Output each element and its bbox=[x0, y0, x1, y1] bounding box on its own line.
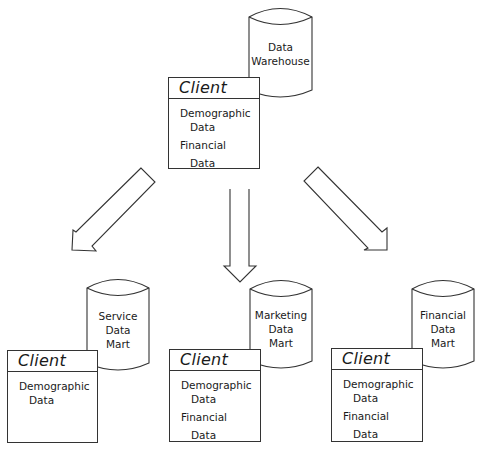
field-line: Data bbox=[332, 427, 422, 441]
arrow-down-right-icon bbox=[304, 167, 387, 250]
field-line: Data bbox=[170, 392, 260, 406]
entity-fields: Demographic Data Financial Data bbox=[332, 370, 422, 441]
entity-title: Client bbox=[332, 349, 422, 370]
field-line: Data bbox=[169, 120, 259, 134]
field-line: Demographic bbox=[169, 106, 259, 120]
service-mart-label: Service Data Mart bbox=[87, 309, 149, 351]
entity-title: Client bbox=[8, 351, 97, 372]
data-warehouse-label: Data Warehouse bbox=[249, 40, 312, 68]
label-line: Mart bbox=[87, 337, 149, 351]
label-line: Warehouse bbox=[249, 54, 312, 68]
field-line: Data bbox=[332, 391, 422, 405]
field-line: Financial bbox=[170, 410, 260, 424]
field-line: Demographic bbox=[332, 377, 422, 391]
arrow-down-icon bbox=[224, 189, 256, 282]
warehouse-client-entity: Client Demographic Data Financial Data bbox=[168, 77, 260, 169]
entity-fields: Demographic Data bbox=[8, 372, 97, 407]
field-line: Financial bbox=[169, 138, 259, 152]
field-line: Demographic bbox=[170, 378, 260, 392]
field-line: Data bbox=[170, 428, 260, 442]
entity-fields: Demographic Data Financial Data bbox=[169, 99, 259, 170]
field-line: Data bbox=[169, 156, 259, 170]
arrow-down-left-icon bbox=[72, 168, 155, 251]
marketing-mart-client-entity: Client Demographic Data Financial Data bbox=[169, 349, 261, 442]
field-line: Financial bbox=[332, 409, 422, 423]
label-line: Data bbox=[410, 322, 476, 336]
field-line: Demographic bbox=[8, 379, 97, 393]
marketing-mart-label: Marketing Data Mart bbox=[248, 308, 314, 350]
label-line: Financial bbox=[410, 308, 476, 322]
label-line: Service bbox=[87, 309, 149, 323]
entity-title: Client bbox=[169, 78, 259, 99]
label-line: Data bbox=[249, 40, 312, 54]
financial-mart-label: Financial Data Mart bbox=[410, 308, 476, 350]
entity-title: Client bbox=[170, 350, 260, 371]
label-line: Data bbox=[248, 322, 314, 336]
field-line: Data bbox=[8, 393, 97, 407]
label-line: Data bbox=[87, 323, 149, 337]
label-line: Marketing bbox=[248, 308, 314, 322]
label-line: Mart bbox=[248, 336, 314, 350]
service-mart-client-entity: Client Demographic Data bbox=[7, 350, 98, 443]
entity-fields: Demographic Data Financial Data bbox=[170, 371, 260, 442]
financial-mart-client-entity: Client Demographic Data Financial Data bbox=[331, 348, 423, 442]
